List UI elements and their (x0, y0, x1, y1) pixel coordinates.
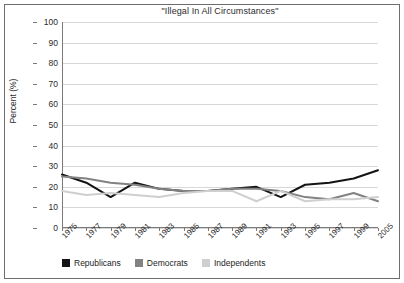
y-tick-mark (33, 166, 37, 167)
x-tick-mark (111, 228, 112, 231)
y-tick-label: 30 (49, 162, 58, 171)
y-tick-label: 100 (44, 18, 58, 27)
y-tick-label: 50 (49, 121, 58, 130)
legend-swatch-icon (62, 259, 70, 267)
y-tick-mark (33, 22, 37, 23)
y-tick-mark (33, 187, 37, 188)
x-tick-mark (305, 228, 306, 231)
series-lines (62, 22, 378, 228)
chart-figure: "Illegal In All Circumstances" Percent (… (0, 0, 404, 283)
y-tick-label: 70 (49, 80, 58, 89)
y-tick-label: 80 (49, 59, 58, 68)
legend-item: Democrats (135, 258, 188, 268)
legend-label: Democrats (147, 258, 188, 268)
y-tick-mark (33, 207, 37, 208)
x-tick-mark (86, 228, 87, 231)
x-tick-mark (378, 228, 379, 231)
legend-item: Independents (202, 258, 266, 268)
legend-swatch-icon (202, 259, 210, 267)
y-tick-mark (33, 43, 37, 44)
legend-label: Republicans (74, 258, 121, 268)
y-tick-label: 60 (49, 100, 58, 109)
x-tick-mark (256, 228, 257, 231)
x-tick-mark (354, 228, 355, 231)
y-tick-mark (33, 228, 37, 229)
plot-area (62, 22, 378, 228)
y-tick-label: 0 (53, 224, 58, 233)
y-tick-mark (33, 125, 37, 126)
x-tick-mark (135, 228, 136, 231)
x-tick-mark (232, 228, 233, 231)
x-tick-mark (208, 228, 209, 231)
y-axis-label: Percent (%) (8, 61, 18, 141)
y-tick-mark (33, 63, 37, 64)
chart-title: "Illegal In All Circumstances" (62, 6, 378, 16)
x-tick-mark (281, 228, 282, 231)
legend-item: Republicans (62, 258, 121, 268)
legend-swatch-icon (135, 259, 143, 267)
y-tick-label: 10 (49, 203, 58, 212)
x-tick-mark (159, 228, 160, 231)
y-tick-mark (33, 84, 37, 85)
x-tick-mark (62, 228, 63, 231)
y-tick-label: 40 (49, 141, 58, 150)
y-tick-label: 20 (49, 183, 58, 192)
x-tick-mark (184, 228, 185, 231)
chart-legend: RepublicansDemocratsIndependents (62, 258, 265, 268)
legend-label: Independents (214, 258, 266, 268)
y-tick-label: 90 (49, 38, 58, 47)
y-tick-mark (33, 146, 37, 147)
y-tick-mark (33, 104, 37, 105)
x-tick-mark (329, 228, 330, 231)
